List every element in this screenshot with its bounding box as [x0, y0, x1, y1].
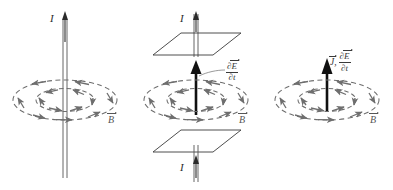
- label-separator: ,: [334, 57, 336, 67]
- magnetic-field-label-capacitor: B: [239, 115, 245, 125]
- panel-straight-wire: I B: [0, 0, 131, 190]
- e-vector-symbol: E: [231, 62, 237, 71]
- leader-line: [199, 70, 225, 76]
- panel-capacitor-canvas: [131, 0, 262, 190]
- source-label-combined: J, ∂E ∂t: [330, 52, 351, 73]
- bottom-plate-shape: [153, 130, 241, 152]
- panel-capacitor: I I ∂E ∂t B: [131, 0, 262, 190]
- bottom-lead-wire: [193, 145, 199, 182]
- panel-combined-sources: J, ∂E ∂t B: [262, 0, 393, 190]
- physics-figure: I B: [0, 0, 393, 190]
- dedt-fraction: ∂E ∂t: [226, 62, 238, 83]
- magnetic-field-label-wire: B: [108, 115, 114, 125]
- displacement-current-arrow: [191, 60, 202, 115]
- panel-combined-canvas: [262, 0, 393, 190]
- current-label-capacitor-bottom: I: [180, 162, 184, 173]
- magnetic-field-label-combined: B: [370, 115, 376, 125]
- b-vector-symbol: B: [370, 115, 376, 125]
- dedt-denominator: ∂t: [339, 63, 351, 73]
- vertical-wire: [63, 20, 67, 178]
- b-vector-symbol: B: [108, 115, 114, 125]
- e-vector-symbol: E: [344, 52, 350, 61]
- dedt-denominator: ∂t: [226, 73, 238, 83]
- top-lead-wire: [193, 11, 199, 57]
- panel-wire-canvas: [0, 0, 131, 190]
- time-symbol: t: [233, 72, 236, 82]
- b-vector-symbol: B: [239, 115, 245, 125]
- dedt-numerator: ∂E: [226, 62, 238, 73]
- current-label-capacitor-top: I: [180, 13, 184, 24]
- dedt-expression: ∂E ∂t: [226, 62, 238, 83]
- top-plate-shape: [153, 33, 241, 55]
- dedt-fraction: ∂E ∂t: [339, 52, 351, 73]
- outer-field-loop: [13, 80, 117, 120]
- j-vector-symbol: J: [330, 58, 334, 68]
- combined-expression: J, ∂E ∂t: [330, 52, 351, 73]
- dedt-numerator: ∂E: [339, 52, 351, 63]
- displacement-current-label-capacitor: ∂E ∂t: [226, 56, 238, 83]
- inner-field-loop: [36, 89, 94, 112]
- current-density-symbol-group: J,: [330, 58, 337, 68]
- time-symbol: t: [346, 63, 349, 73]
- current-label-wire: I: [50, 13, 54, 24]
